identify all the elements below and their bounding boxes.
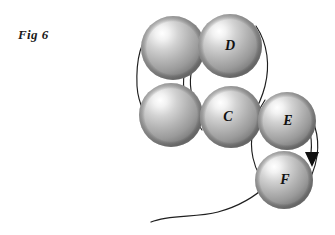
figure-container: Fig 6 xyxy=(0,0,335,235)
sphere-f: F xyxy=(255,151,313,209)
sphere-d: D xyxy=(198,14,262,78)
sphere-c: C xyxy=(200,86,262,148)
sphere-label-d: D xyxy=(224,38,235,53)
sphere-bottom-left xyxy=(139,83,203,147)
sphere-label-c: C xyxy=(223,109,233,124)
sphere-layer: D C E F xyxy=(139,14,316,209)
sphere-label-e: E xyxy=(282,113,292,128)
sphere-top-left xyxy=(141,16,205,80)
tail-curve-into-f xyxy=(151,184,268,222)
sphere-e: E xyxy=(258,92,316,150)
sphere-label-f: F xyxy=(279,172,290,187)
molecule-diagram: D C E F xyxy=(0,0,335,235)
